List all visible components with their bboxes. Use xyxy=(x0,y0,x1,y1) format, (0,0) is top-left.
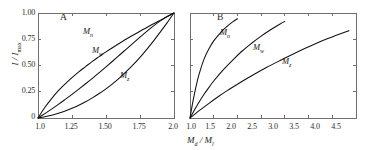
plot-panel-b: B Md / Ml 1.0 1.5 2.0 2.5 3.0 3.5 4.0 4.… xyxy=(185,0,375,150)
panel-b-plot-area xyxy=(185,0,375,150)
curve-mn-a xyxy=(38,13,174,118)
curve-mw-a xyxy=(38,13,174,118)
curve-mn-b xyxy=(190,19,237,118)
curve-mz-a xyxy=(38,13,174,118)
curve-mw-b xyxy=(190,21,285,118)
curve-mz-b xyxy=(190,31,349,118)
panel-a-plot-area xyxy=(0,0,190,150)
figure-container: I / Imax A 1.00 0.75 0.50 0.25 0 1.0 1.2… xyxy=(0,0,375,150)
plot-panel-a: I / Imax A 1.00 0.75 0.50 0.25 0 1.0 1.2… xyxy=(0,0,190,150)
